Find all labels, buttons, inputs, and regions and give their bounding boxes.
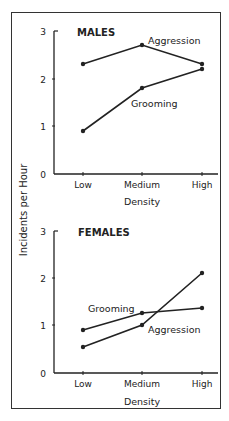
y-tick-0: 0 <box>40 170 46 180</box>
y-tick-0: 0 <box>40 369 46 379</box>
y-tick-3: 3 <box>40 27 46 37</box>
females-panel: 3 2 1 0 Low Medium High Density FEMALES … <box>40 227 218 407</box>
x-tick-high: High <box>192 379 213 389</box>
x-axis-label: Density <box>124 196 160 207</box>
x-tick-medium: Medium <box>124 180 160 190</box>
y-tick-1: 1 <box>40 122 46 132</box>
y-axis-label: Incidents per Hour <box>18 163 29 256</box>
series-label-grooming: Grooming <box>88 303 135 314</box>
series-aggression-line <box>83 45 202 64</box>
x-tick-low: Low <box>74 180 92 190</box>
y-tick-3: 3 <box>40 227 46 237</box>
y-tick-2: 2 <box>40 75 46 85</box>
series-label-grooming: Grooming <box>131 98 178 109</box>
panel-title: FEMALES <box>78 227 130 238</box>
panel-title: MALES <box>77 27 115 38</box>
series-label-aggression: Aggression <box>148 324 200 335</box>
males-panel: 3 2 1 0 Low Medium High Density MALES Ag… <box>40 27 218 207</box>
chart-canvas: Incidents per Hour 3 2 1 0 Low Medium Hi… <box>0 0 229 421</box>
x-tick-low: Low <box>74 379 92 389</box>
x-tick-high: High <box>192 180 213 190</box>
y-tick-1: 1 <box>40 321 46 331</box>
x-tick-medium: Medium <box>124 379 160 389</box>
series-label-aggression: Aggression <box>148 35 200 46</box>
x-axis-label: Density <box>124 396 160 407</box>
y-tick-2: 2 <box>40 274 46 284</box>
